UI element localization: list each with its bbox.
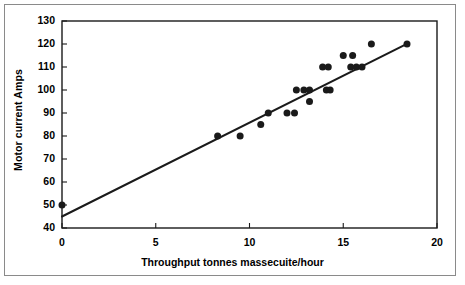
x-tick-label: 0 (47, 236, 77, 248)
x-tick-label: 5 (141, 236, 171, 248)
figure-container: Motor current Amps Throughput tonnes mas… (0, 0, 465, 285)
x-tick-label: 10 (235, 236, 265, 248)
x-axis-tick-marks (62, 223, 437, 228)
x-tick-label: 15 (328, 236, 358, 248)
data-points (59, 41, 411, 209)
plot-area-frame (62, 21, 437, 228)
y-tick-label: 110 (21, 60, 55, 72)
y-tick-label: 90 (21, 106, 55, 118)
x-tick-label: 20 (422, 236, 452, 248)
y-tick-label: 60 (21, 175, 55, 187)
y-tick-label: 70 (21, 152, 55, 164)
y-tick-label: 120 (21, 37, 55, 49)
y-axis-tick-marks (62, 21, 67, 228)
y-tick-label: 100 (21, 83, 55, 95)
y-tick-label: 50 (21, 198, 55, 210)
y-tick-label: 40 (21, 221, 55, 233)
y-tick-label: 80 (21, 129, 55, 141)
y-tick-label: 130 (21, 14, 55, 26)
